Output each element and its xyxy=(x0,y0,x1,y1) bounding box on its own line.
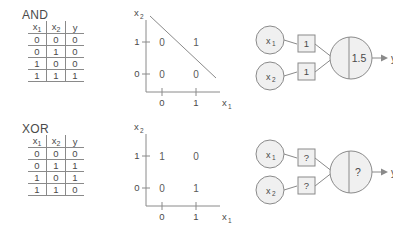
cell-x2: 0 xyxy=(47,172,66,184)
xor-truth-table: x1 x2 y 0 0 0 0 1 1 1 0 1 1 1 xyxy=(28,135,84,196)
plot-x-axis-label: x xyxy=(222,211,227,222)
output-label: y xyxy=(391,167,393,178)
xor-perceptron-diagram: x 1 x 2 ? ? ? y xyxy=(253,132,393,212)
plot-x-axis-label-sub: 1 xyxy=(228,103,232,110)
plot-x-axis-label: x xyxy=(222,97,227,108)
table-row: 0 1 0 xyxy=(28,46,84,58)
output-arrow-icon xyxy=(381,169,388,176)
table-row: 1 0 1 xyxy=(28,172,84,184)
plot-y-axis-label: x xyxy=(134,7,139,18)
cell-x1: 1 xyxy=(28,58,47,70)
cell-y: 0 xyxy=(66,46,85,58)
point-label-1-0: 0 xyxy=(193,69,199,80)
header-x1: x1 xyxy=(28,21,47,34)
output-arrow-icon xyxy=(381,55,388,62)
neuron-node xyxy=(330,151,372,193)
cell-x1: 1 xyxy=(28,184,47,196)
cell-x1: 1 xyxy=(28,172,47,184)
input-node-x2-sub: 2 xyxy=(272,190,276,197)
y-tick-label-1: 1 xyxy=(134,150,139,161)
xor-decision-plot: 1 0 0 1 x 2 x 1 1 0 0 1 xyxy=(124,118,234,224)
wire-input2-to-weight2 xyxy=(284,72,297,76)
cell-y: 0 xyxy=(66,58,85,70)
plot-x-axis-label-sub: 1 xyxy=(228,217,232,224)
cell-x2: 1 xyxy=(47,70,66,82)
and-gate-section: AND x1 x2 y 0 0 0 0 1 0 1 0 0 xyxy=(0,0,395,114)
cell-x1: 0 xyxy=(28,160,47,172)
table-row: 1 1 1 xyxy=(28,70,84,82)
header-x1: x1 xyxy=(28,135,47,148)
cell-y: 1 xyxy=(66,160,85,172)
header-x2: x2 xyxy=(47,135,66,148)
table-row: 1 0 0 xyxy=(28,58,84,70)
table-header-row: x1 x2 y xyxy=(28,135,84,148)
point-label-0-1: 1 xyxy=(159,151,165,162)
cell-x2: 1 xyxy=(47,160,66,172)
table-row: 0 0 0 xyxy=(28,34,84,46)
point-label-0-0: 0 xyxy=(159,183,165,194)
and-perceptron-diagram: x 1 x 2 1 1 1.5 y xyxy=(253,18,393,98)
cell-y: 0 xyxy=(66,34,85,46)
point-label-1-1: 0 xyxy=(193,151,199,162)
y-tick-label-1: 1 xyxy=(134,36,139,47)
table-header-row: x1 x2 y xyxy=(28,21,84,34)
and-gate-title: AND xyxy=(22,8,48,22)
input-node-x1-label: x xyxy=(266,36,271,46)
plot-y-axis-label-sub: 2 xyxy=(140,13,144,20)
cell-x2: 1 xyxy=(47,46,66,58)
input-node-x1-sub: 1 xyxy=(272,154,276,161)
cell-x2: 0 xyxy=(47,148,66,160)
y-tick-label-0: 0 xyxy=(134,68,139,79)
point-label-1-1: 1 xyxy=(193,37,199,48)
cell-x1: 1 xyxy=(28,70,47,82)
point-label-1-0: 1 xyxy=(193,183,199,194)
input-node-x1-label: x xyxy=(266,150,271,160)
cell-y: 0 xyxy=(66,184,85,196)
x-tick-label-0: 0 xyxy=(159,211,164,222)
wire-input1-to-weight1 xyxy=(284,40,297,44)
cell-x2: 0 xyxy=(47,58,66,70)
header-y: y xyxy=(66,21,85,34)
cell-x2: 1 xyxy=(47,184,66,196)
weight-2-label: 1 xyxy=(304,66,309,77)
plot-y-axis-label-sub: 2 xyxy=(140,127,144,134)
input-node-x1-sub: 1 xyxy=(272,40,276,47)
cell-y: 1 xyxy=(66,70,85,82)
xor-gate-title: XOR xyxy=(22,122,49,136)
wire-input2-to-weight2 xyxy=(284,186,297,190)
cell-x1: 0 xyxy=(28,46,47,58)
x-tick-label-0: 0 xyxy=(159,97,164,108)
and-truth-table: x1 x2 y 0 0 0 0 1 0 1 0 0 1 1 xyxy=(28,21,84,82)
point-label-0-1: 0 xyxy=(159,37,165,48)
and-decision-plot: 1 0 0 1 x 2 x 1 0 1 0 0 xyxy=(124,4,234,110)
input-node-x2-sub: 2 xyxy=(272,76,276,83)
x-tick-label-1: 1 xyxy=(193,97,198,108)
table-row: 1 1 0 xyxy=(28,184,84,196)
input-node-x2-label: x xyxy=(266,72,271,82)
threshold-label: 1.5 xyxy=(352,52,367,64)
cell-x2: 0 xyxy=(47,34,66,46)
table-row: 0 1 1 xyxy=(28,160,84,172)
x-tick-label-1: 1 xyxy=(193,211,198,222)
input-node-x2-label: x xyxy=(266,186,271,196)
threshold-label: ? xyxy=(355,166,361,178)
weight-2-label: ? xyxy=(304,180,309,191)
cell-y: 1 xyxy=(66,172,85,184)
y-tick-label-0: 0 xyxy=(134,182,139,193)
cell-x1: 0 xyxy=(28,148,47,160)
table-row: 0 0 0 xyxy=(28,148,84,160)
header-y: y xyxy=(66,135,85,148)
cell-y: 0 xyxy=(66,148,85,160)
xor-gate-section: XOR x1 x2 y 0 0 0 0 1 1 1 0 1 xyxy=(0,114,395,228)
plot-y-axis-label: x xyxy=(134,121,139,132)
wire-input1-to-weight1 xyxy=(284,154,297,158)
output-label: y xyxy=(391,53,393,64)
weight-1-label: 1 xyxy=(304,38,309,49)
weight-1-label: ? xyxy=(304,152,309,163)
header-x2: x2 xyxy=(47,21,66,34)
point-label-0-0: 0 xyxy=(159,69,165,80)
cell-x1: 0 xyxy=(28,34,47,46)
